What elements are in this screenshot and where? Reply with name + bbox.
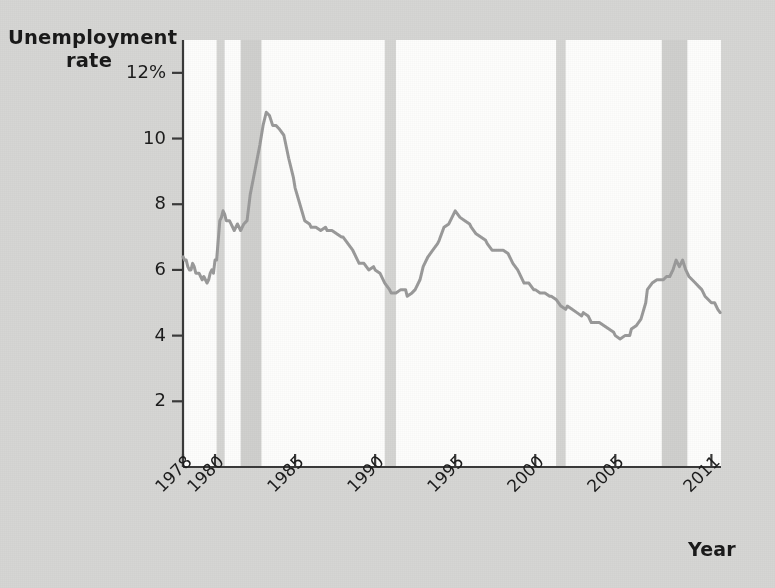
unemployment-rate-chart-figure: Unemployment rate Year 12%108642 1978198… <box>0 0 775 588</box>
y-tick-label-6: 6 <box>106 258 166 279</box>
recession-2001-band <box>556 40 566 467</box>
recession-bands-group <box>217 40 688 467</box>
recession-1990-91-band <box>385 40 396 467</box>
data-series-group <box>183 112 720 339</box>
series-line-unemployment-rate <box>183 112 720 339</box>
y-tick-label-4: 4 <box>106 324 166 345</box>
axis-lines-group <box>183 40 721 467</box>
y-tick-label-10: 10 <box>106 127 166 148</box>
recession-2007-09-band <box>662 40 688 467</box>
recession-1981-82-band <box>241 40 262 467</box>
y-tick-label-12: 12% <box>106 61 166 82</box>
y-tick-label-8: 8 <box>106 192 166 213</box>
y-tick-label-2: 2 <box>106 389 166 410</box>
chart-canvas <box>0 0 775 588</box>
